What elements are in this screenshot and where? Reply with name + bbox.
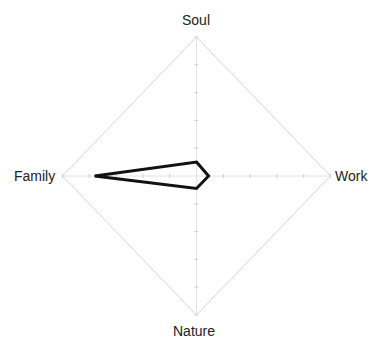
series-polygon: [95, 162, 209, 188]
axis-label-work: Work: [335, 168, 367, 184]
axis-label-soul: Soul: [182, 12, 210, 28]
axis-label-family: Family: [14, 168, 55, 184]
axis-label-nature: Nature: [173, 323, 215, 339]
radar-chart: [0, 0, 381, 360]
